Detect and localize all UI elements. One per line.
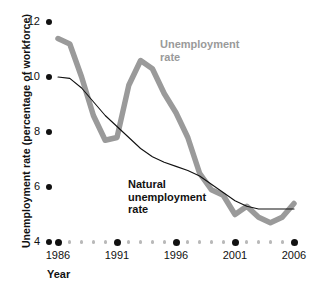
x-tick-dot-major bbox=[291, 239, 298, 246]
x-tick-dot-minor bbox=[210, 240, 213, 243]
x-tick-dot-minor bbox=[198, 240, 201, 243]
x-tick-dot-minor bbox=[269, 240, 272, 243]
annotation-unemployment-line1: Unemployment bbox=[160, 38, 239, 50]
y-tick-label: 12 bbox=[18, 15, 40, 27]
y-tick-dot bbox=[46, 19, 52, 25]
x-tick-dot-minor bbox=[281, 240, 284, 243]
y-tick-dot bbox=[46, 239, 52, 245]
x-tick-dot-minor bbox=[139, 240, 142, 243]
x-tick-dot-minor bbox=[80, 240, 83, 243]
x-axis-title: Year bbox=[47, 268, 70, 280]
x-tick-label: 1986 bbox=[38, 249, 78, 261]
annotation-natural-line3: rate bbox=[128, 203, 148, 215]
annotation-natural-line1: Natural bbox=[128, 178, 166, 190]
x-tick-dot-minor bbox=[104, 240, 107, 243]
x-tick-dot-major bbox=[173, 239, 180, 246]
x-tick-dot-minor bbox=[257, 240, 260, 243]
y-tick-label: 6 bbox=[18, 180, 40, 192]
unemployment-rate-chart: Unemployment rate (percentage of workfor… bbox=[0, 0, 310, 293]
y-tick-label: 4 bbox=[18, 235, 40, 247]
y-tick-label: 8 bbox=[18, 125, 40, 137]
x-tick-dot-major bbox=[55, 239, 62, 246]
annotation-unemployment-line2: rate bbox=[160, 51, 180, 63]
annotation-natural-unemployment-rate: Natural unemployment rate bbox=[128, 178, 206, 216]
x-tick-label: 2001 bbox=[215, 249, 255, 261]
x-tick-dot-minor bbox=[163, 240, 166, 243]
x-tick-label: 1991 bbox=[97, 249, 137, 261]
x-tick-dot-minor bbox=[151, 240, 154, 243]
y-tick-dot bbox=[46, 129, 52, 135]
x-tick-dot-major bbox=[232, 239, 239, 246]
y-tick-label: 10 bbox=[18, 70, 40, 82]
x-tick-label: 2006 bbox=[274, 249, 310, 261]
x-tick-dot-minor bbox=[222, 240, 225, 243]
x-tick-dot-major bbox=[114, 239, 121, 246]
x-tick-label: 1996 bbox=[156, 249, 196, 261]
y-tick-dot bbox=[46, 74, 52, 80]
x-tick-dot-minor bbox=[92, 240, 95, 243]
y-tick-dot bbox=[46, 184, 52, 190]
annotation-natural-line2: unemployment bbox=[128, 191, 206, 203]
annotation-unemployment-rate: Unemployment rate bbox=[160, 38, 239, 63]
